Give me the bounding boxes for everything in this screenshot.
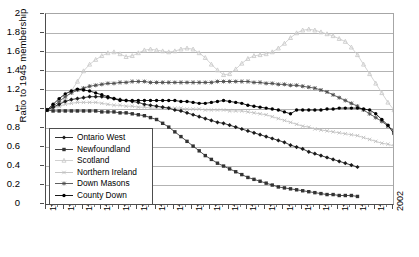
y-tick-mark xyxy=(40,127,44,128)
x-tick-mark xyxy=(45,205,46,209)
x-tick-mark xyxy=(173,205,174,209)
y-tick-mark xyxy=(40,203,44,204)
x-tick-mark xyxy=(264,205,265,209)
x-tick-mark xyxy=(374,205,375,209)
y-tick-mark xyxy=(40,32,44,33)
legend-item-ontario-west[interactable]: Ontario West xyxy=(53,132,148,144)
legend-item-newfoundland[interactable]: Newfoundland xyxy=(53,144,148,156)
x-tick-mark xyxy=(246,205,247,209)
x-tick-mark xyxy=(301,205,302,209)
legend-label: Northern Ireland xyxy=(75,168,137,177)
legend-label: Ontario West xyxy=(75,133,125,142)
x-tick-mark xyxy=(313,205,314,207)
y-tick-mark xyxy=(40,51,44,52)
chart-figure: Ratio to 1945 membership 00.20.40.60.811… xyxy=(0,0,419,257)
y-tick-label: 2 xyxy=(0,8,20,18)
legend-label: Newfoundland xyxy=(75,145,130,154)
x-tick-mark xyxy=(185,205,186,207)
legend-marker-icon xyxy=(53,190,75,201)
y-tick-mark xyxy=(40,70,44,71)
x-tick-mark xyxy=(392,205,393,209)
x-tick-mark xyxy=(319,205,320,209)
y-tick-mark xyxy=(40,13,44,14)
y-tick-label: 0 xyxy=(0,198,20,208)
y-tick-mark xyxy=(40,89,44,90)
legend-label: County Down xyxy=(75,191,127,200)
legend-item-scotland[interactable]: Scotland xyxy=(53,155,148,167)
x-tick-mark xyxy=(337,205,338,209)
x-tick-mark xyxy=(118,205,119,209)
legend-marker-icon xyxy=(53,167,75,178)
y-tick-label: 1.6 xyxy=(0,46,20,56)
y-tick-label: 0.8 xyxy=(0,122,20,132)
x-tick-mark xyxy=(282,205,283,209)
x-tick-mark xyxy=(82,205,83,209)
x-tick-mark xyxy=(209,205,210,209)
x-tick-mark xyxy=(331,205,332,207)
x-tick-mark xyxy=(155,205,156,209)
legend-item-down-masons[interactable]: Down Masons xyxy=(53,178,148,190)
y-tick-mark xyxy=(40,184,44,185)
y-tick-label: 0.4 xyxy=(0,160,20,170)
x-tick-mark xyxy=(191,205,192,209)
x-tick-mark xyxy=(100,205,101,209)
legend-label: Scotland xyxy=(75,156,109,165)
legend-marker-icon xyxy=(53,144,75,155)
legend-item-county-down[interactable]: County Down xyxy=(53,190,148,202)
y-tick-label: 0.6 xyxy=(0,141,20,151)
x-tick-mark xyxy=(258,205,259,207)
x-tick-mark xyxy=(386,205,387,207)
legend: Ontario WestNewfoundlandScotlandNorthern… xyxy=(49,128,153,205)
y-tick-label: 1.8 xyxy=(0,27,20,37)
y-tick-label: 1.2 xyxy=(0,84,20,94)
x-tick-mark xyxy=(112,205,113,207)
y-tick-label: 1 xyxy=(0,103,20,113)
x-tick-mark xyxy=(355,205,356,209)
legend-label: Down Masons xyxy=(75,179,130,188)
x-tick-label: 2002 xyxy=(396,191,405,211)
x-tick-mark xyxy=(228,205,229,209)
y-tick-label: 0.2 xyxy=(0,179,20,189)
legend-marker-icon xyxy=(53,178,75,189)
y-tick-mark xyxy=(40,165,44,166)
y-tick-mark xyxy=(40,146,44,147)
x-tick-mark xyxy=(63,205,64,209)
y-tick-mark xyxy=(40,108,44,109)
legend-marker-icon xyxy=(53,132,75,143)
legend-marker-icon xyxy=(53,155,75,166)
series-down-masons xyxy=(46,80,394,133)
y-tick-label: 1.4 xyxy=(0,65,20,75)
x-tick-mark xyxy=(136,205,137,209)
legend-item-northern-ireland[interactable]: Northern Ireland xyxy=(53,167,148,179)
